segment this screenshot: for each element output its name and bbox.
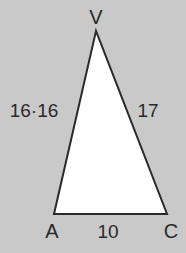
side-label-vc: 17 [137,100,158,121]
vertex-label-v: V [89,6,103,28]
vertex-label-c: C [164,220,178,242]
side-label-ac: 10 [97,221,118,242]
side-label-va: 16·16 [10,100,59,121]
triangle-diagram: V A C 16·16 17 10 [0,0,186,253]
triangle-VAC [54,31,167,214]
vertex-label-a: A [45,220,59,242]
